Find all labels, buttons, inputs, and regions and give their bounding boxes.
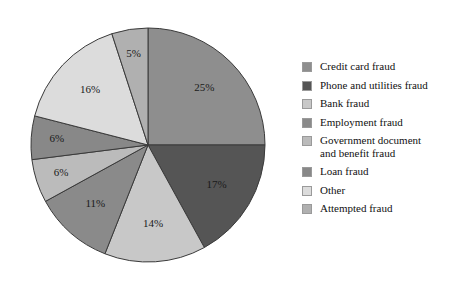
legend-item-label: Attempted fraud [320,202,392,215]
legend-color-swatch [302,81,312,91]
legend-item-label: Loan fraud [320,165,369,178]
legend-item-label: Bank fraud [320,97,369,110]
legend-color-swatch [302,136,312,146]
pie-slice-value-label: 5% [126,47,141,59]
legend-item[interactable]: Phone and utilities fraud [302,79,468,92]
legend-item[interactable]: Employment fraud [302,116,468,129]
legend-color-swatch [302,186,312,196]
legend-item[interactable]: Bank fraud [302,97,468,110]
legend-color-swatch [302,167,312,177]
pie-slice-value-label: 6% [54,166,69,178]
legend-color-swatch [302,118,312,128]
chart-legend: Credit card fraudPhone and utilities fra… [302,60,468,221]
pie-slice-value-label: 16% [80,83,100,95]
pie-slice-value-label: 11% [86,197,106,209]
pie-chart-plot-area: 25%17%14%11%6%6%16%5% [23,20,273,270]
pie-slice-value-label: 25% [194,81,214,93]
legend-item[interactable]: Credit card fraud [302,60,468,73]
legend-color-swatch [302,204,312,214]
legend-item[interactable]: Other [302,184,468,197]
legend-item[interactable]: Attempted fraud [302,202,468,215]
legend-item-label: Employment fraud [320,116,403,129]
legend-item-label: Other [320,184,345,197]
legend-item-label: Government document and benefit fraud [320,134,421,159]
legend-item-label: Credit card fraud [320,60,395,73]
pie-slice-value-label: 14% [143,217,163,229]
legend-item[interactable]: Loan fraud [302,165,468,178]
pie-chart-figure: 25%17%14%11%6%6%16%5% Credit card fraudP… [0,0,472,287]
legend-color-swatch [302,62,312,72]
legend-color-swatch [302,99,312,109]
pie-slice-value-label: 17% [206,178,226,190]
legend-item[interactable]: Government document and benefit fraud [302,134,468,159]
legend-item-label: Phone and utilities fraud [320,79,428,92]
pie-slice-value-label: 6% [50,132,65,144]
pie-chart-svg: 25%17%14%11%6%6%16%5% [23,20,273,270]
